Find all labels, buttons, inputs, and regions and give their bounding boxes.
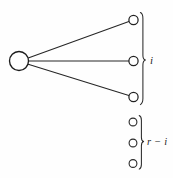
- connected-group-label: i: [150, 55, 153, 66]
- connected-node-2: [129, 56, 138, 65]
- lower-brace: [139, 116, 143, 170]
- unconnected-node-2: [129, 139, 137, 147]
- edge-to-node-3: [28, 64, 129, 95]
- unconnected-node-3: [129, 160, 137, 168]
- connected-node-group: [129, 15, 138, 101]
- unconnected-group-label: r − i: [147, 137, 167, 148]
- edge-to-node-1: [28, 21, 129, 58]
- unconnected-node-group: [129, 118, 137, 167]
- connected-node-1: [129, 15, 138, 24]
- unconnected-node-1: [129, 118, 137, 126]
- connected-node-3: [129, 92, 138, 101]
- edge-group: [28, 21, 129, 95]
- figure-canvas: i r − i: [0, 0, 173, 178]
- diagram-svg: [0, 0, 173, 178]
- upper-brace: [140, 13, 145, 105]
- source-vertex: [10, 52, 29, 71]
